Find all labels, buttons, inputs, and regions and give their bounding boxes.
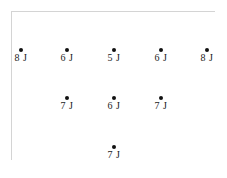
node: 7 J xyxy=(55,96,79,111)
node-label: 8 J xyxy=(195,53,219,63)
node-label: 7 J xyxy=(102,150,126,160)
frame-left-border xyxy=(11,11,12,160)
node-label: 8 J xyxy=(9,53,33,63)
node: 8 J xyxy=(195,48,219,63)
node: 8 J xyxy=(9,48,33,63)
node-label: 6 J xyxy=(102,101,126,111)
node-label: 7 J xyxy=(149,101,173,111)
node: 7 J xyxy=(102,145,126,160)
node: 6 J xyxy=(149,48,173,63)
node-label: 6 J xyxy=(55,53,79,63)
frame-top-border xyxy=(11,11,215,12)
node: 6 J xyxy=(102,96,126,111)
node: 6 J xyxy=(55,48,79,63)
node-label: 5 J xyxy=(102,53,126,63)
node-label: 7 J xyxy=(55,101,79,111)
node: 7 J xyxy=(149,96,173,111)
node-label: 6 J xyxy=(149,53,173,63)
node: 5 J xyxy=(102,48,126,63)
